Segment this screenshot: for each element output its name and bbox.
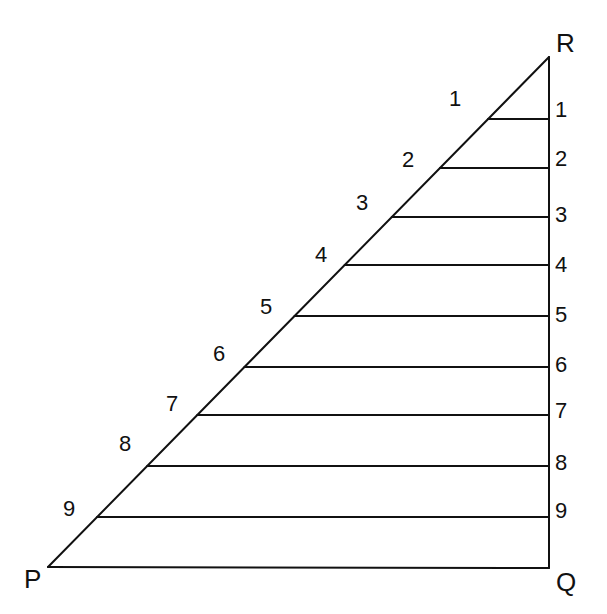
vertex-label-q: Q [556, 569, 576, 595]
base-pq [48, 567, 549, 568]
side-label-3: 3 [555, 204, 567, 226]
hypotenuse-pr [48, 57, 549, 567]
side-label-7: 7 [555, 400, 567, 422]
hypotenuse-label-8: 8 [119, 433, 131, 455]
hypotenuse-label-5: 5 [260, 296, 272, 318]
hypotenuse-label-3: 3 [356, 192, 368, 214]
side-label-6: 6 [555, 354, 567, 376]
hypotenuse-label-6: 6 [213, 343, 225, 365]
hypotenuse-label-2: 2 [402, 149, 414, 171]
triangle-lines [0, 0, 607, 614]
hypotenuse-label-9: 9 [63, 498, 75, 520]
triangle-diagram: R P Q 1 2 3 4 5 6 7 8 9 1 2 3 4 5 6 7 8 … [0, 0, 607, 614]
side-label-4: 4 [555, 254, 567, 276]
vertex-label-p: P [24, 566, 41, 592]
hypotenuse-label-1: 1 [449, 88, 461, 110]
side-label-1: 1 [555, 99, 567, 121]
side-label-5: 5 [555, 304, 567, 326]
side-label-9: 9 [555, 500, 567, 522]
side-label-8: 8 [555, 452, 567, 474]
side-label-2: 2 [555, 148, 567, 170]
hypotenuse-label-4: 4 [315, 244, 327, 266]
vertex-label-r: R [556, 30, 575, 56]
hypotenuse-label-7: 7 [166, 393, 178, 415]
